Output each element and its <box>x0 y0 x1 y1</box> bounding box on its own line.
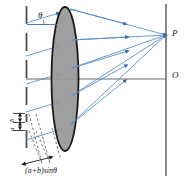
diagram-canvas <box>0 0 193 180</box>
incident-ray-1 <box>26 13 59 23</box>
theta-angle-marker <box>27 20 57 25</box>
caption-measure-arrow <box>24 157 52 164</box>
incident-ray-5 <box>26 130 59 140</box>
physics-diagram-figure: θ P O b a (a+b)sinθ <box>0 0 193 180</box>
converging-rays-group <box>69 9 166 126</box>
converging-ray-5 <box>69 35 166 126</box>
focus-point-label: P <box>172 29 178 38</box>
slit-width-label: a <box>9 128 16 132</box>
theta-angle-label: θ <box>38 11 42 20</box>
converging-ray-3 <box>72 35 166 68</box>
bar-width-label: b <box>9 119 16 123</box>
converging-lens <box>52 7 79 151</box>
axis-point-label: O <box>172 71 179 80</box>
path-difference-caption: (a+b)sinθ <box>25 167 57 175</box>
converging-ray-4 <box>71 35 166 96</box>
